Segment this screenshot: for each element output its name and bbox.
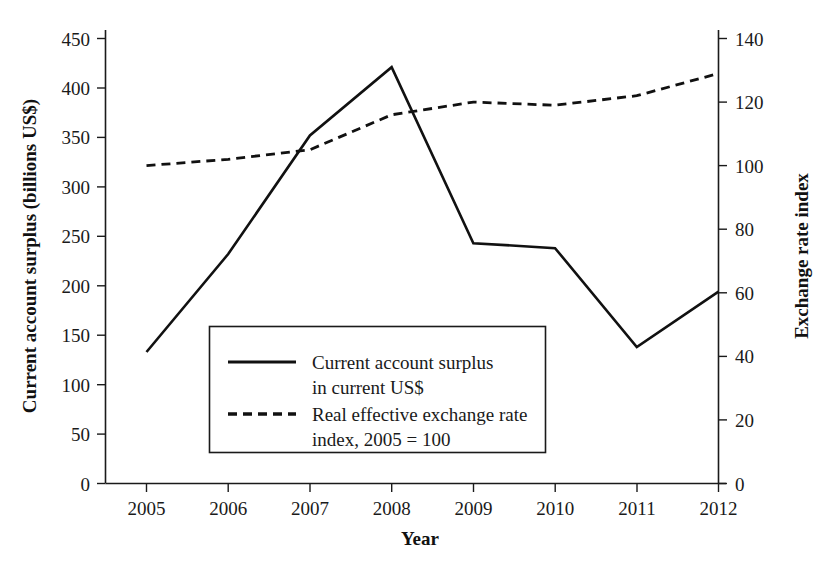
- x-tick-label-2007: 2007: [291, 498, 329, 519]
- x-tick-label-2006: 2006: [209, 498, 247, 519]
- legend-entry-0-line1: Current account surplus: [312, 352, 494, 373]
- y-tick-label-350: 350: [62, 127, 91, 148]
- x-tick-label-2011: 2011: [618, 498, 655, 519]
- y-axis-right-ticks: 140 120 100 80 60 40 20 0: [719, 29, 764, 495]
- legend-entry-1-line1: Real effective exchange rate: [312, 404, 527, 425]
- y-tick-label-100: 100: [62, 375, 91, 396]
- x-tick-label-2012: 2012: [700, 498, 738, 519]
- legend-entry-0-line2: in current US$: [312, 377, 424, 398]
- y-tick-label-200: 200: [62, 276, 91, 297]
- y-tick-label-400: 400: [62, 78, 91, 99]
- y-tick-label-300: 300: [62, 177, 91, 198]
- y-axis-right-title: Exchange rate index: [791, 173, 812, 339]
- legend-entry-1-line2: index, 2005 = 100: [312, 429, 450, 450]
- x-axis-title: Year: [401, 528, 440, 549]
- y2-tick-label-140: 140: [735, 29, 764, 50]
- y-tick-label-50: 50: [71, 424, 90, 445]
- x-axis-ticks: 2005 2006 2007 2008 2009 2010 2011 2012: [128, 484, 738, 520]
- y2-tick-label-80: 80: [735, 219, 754, 240]
- y2-tick-label-0: 0: [735, 474, 745, 495]
- y-axis-left-ticks: 450 400 350 300 250 200 150 100 50 0: [62, 29, 106, 495]
- y2-tick-label-20: 20: [735, 410, 754, 431]
- y-axis-left-title: Current account surplus (billions US$): [19, 99, 41, 413]
- y2-tick-label-120: 120: [735, 92, 764, 113]
- x-tick-label-2010: 2010: [536, 498, 574, 519]
- y2-tick-label-100: 100: [735, 156, 764, 177]
- x-tick-label-2009: 2009: [455, 498, 493, 519]
- series-real-effective-exchange-rate: [147, 73, 719, 165]
- x-tick-label-2008: 2008: [373, 498, 411, 519]
- y2-tick-label-40: 40: [735, 346, 754, 367]
- y-tick-label-250: 250: [62, 226, 91, 247]
- chart-svg: 450 400 350 300 250 200 150 100 50 0 140…: [0, 0, 839, 565]
- y-tick-label-450: 450: [62, 29, 91, 50]
- chart-figure: 450 400 350 300 250 200 150 100 50 0 140…: [0, 0, 839, 565]
- chart-legend: Current account surplus in current US$ R…: [210, 327, 546, 453]
- y-tick-label-0: 0: [81, 474, 91, 495]
- y2-tick-label-60: 60: [735, 283, 754, 304]
- x-tick-label-2005: 2005: [128, 498, 166, 519]
- y-tick-label-150: 150: [62, 325, 91, 346]
- series-current-account-surplus: [147, 67, 719, 352]
